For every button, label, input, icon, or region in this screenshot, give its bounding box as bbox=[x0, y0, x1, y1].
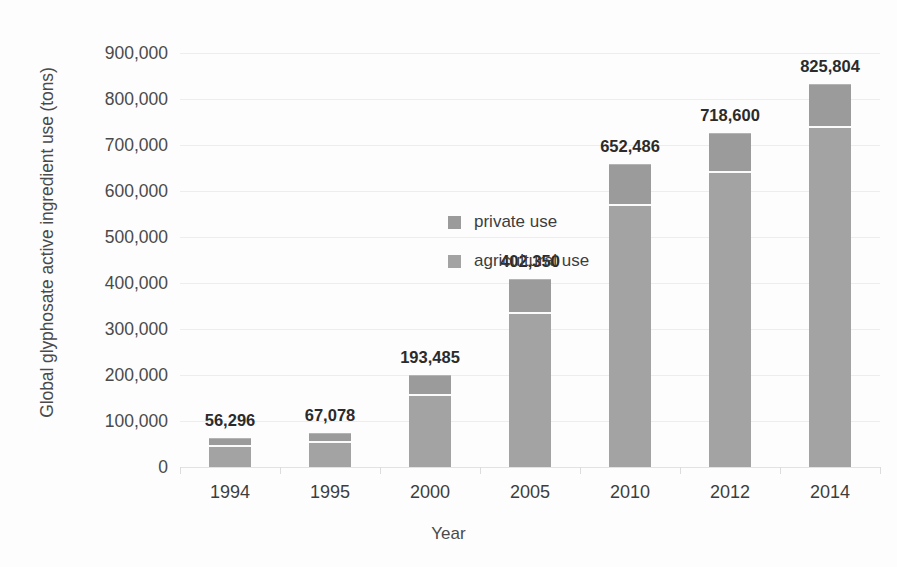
y-axis-tick-label: 600,000 bbox=[48, 181, 168, 202]
glyphosate-use-bar-chart: Global glyphosate active ingredient use … bbox=[0, 0, 897, 567]
y-axis-tick-label: 100,000 bbox=[48, 411, 168, 432]
y-axis-tick-label: 0 bbox=[48, 457, 168, 478]
bar-segment-private-use[interactable] bbox=[809, 84, 851, 128]
bar-group[interactable]: 652,486 bbox=[609, 53, 651, 467]
legend-item[interactable]: agricultural use bbox=[448, 251, 589, 271]
x-axis-tick-mark bbox=[180, 467, 181, 474]
bar-value-label: 825,804 bbox=[800, 57, 860, 76]
x-axis-tick-mark bbox=[780, 467, 781, 474]
bar-value-label: 56,296 bbox=[205, 411, 255, 430]
plot-area: 56,29667,078193,485402,350652,486718,600… bbox=[180, 53, 880, 467]
bar-segment-private-use[interactable] bbox=[209, 438, 251, 447]
y-axis-tick-label: 200,000 bbox=[48, 365, 168, 386]
y-axis-tick-label: 900,000 bbox=[48, 43, 168, 64]
bar-value-label: 193,485 bbox=[400, 348, 460, 367]
y-axis-tick-label: 500,000 bbox=[48, 227, 168, 248]
y-axis-tick-label: 800,000 bbox=[48, 89, 168, 110]
legend-label: agricultural use bbox=[474, 251, 589, 271]
x-axis-tick-mark bbox=[580, 467, 581, 474]
bar-group[interactable]: 718,600 bbox=[709, 53, 751, 467]
bar-group[interactable]: 67,078 bbox=[309, 53, 351, 467]
y-axis-tick-label: 400,000 bbox=[48, 273, 168, 294]
bar-segment-private-use[interactable] bbox=[409, 375, 451, 396]
bar-value-label: 718,600 bbox=[700, 106, 760, 125]
bar-group[interactable]: 56,296 bbox=[209, 53, 251, 467]
x-axis-tick-mark bbox=[680, 467, 681, 474]
bar-group[interactable]: 825,804 bbox=[809, 53, 851, 467]
bar-segment-agricultural-use[interactable] bbox=[609, 206, 651, 467]
gridline bbox=[180, 467, 880, 468]
x-axis-tick-mark bbox=[880, 467, 881, 474]
bar-segment-private-use[interactable] bbox=[709, 133, 751, 173]
x-axis-tick-mark bbox=[480, 467, 481, 474]
bar-segment-agricultural-use[interactable] bbox=[209, 447, 251, 467]
y-axis-tick-labels: 0100,000200,000300,000400,000500,000600,… bbox=[40, 53, 168, 467]
bar-segment-agricultural-use[interactable] bbox=[509, 314, 551, 467]
y-axis-tick-label: 300,000 bbox=[48, 319, 168, 340]
legend-label: private use bbox=[474, 212, 557, 232]
bar-value-label: 652,486 bbox=[600, 137, 660, 156]
y-axis-tick-label: 700,000 bbox=[48, 135, 168, 156]
x-axis-tick-mark bbox=[380, 467, 381, 474]
legend-swatch-icon bbox=[448, 255, 461, 268]
chart-legend: private useagricultural use bbox=[448, 212, 589, 290]
bar-value-label: 67,078 bbox=[305, 406, 355, 425]
bar-segment-agricultural-use[interactable] bbox=[409, 396, 451, 467]
bar-group[interactable]: 193,485 bbox=[409, 53, 451, 467]
legend-swatch-icon bbox=[448, 216, 461, 229]
x-axis-tick-mark bbox=[280, 467, 281, 474]
bar-segment-agricultural-use[interactable] bbox=[709, 173, 751, 467]
x-axis-title: Year bbox=[0, 524, 897, 544]
bar-segment-private-use[interactable] bbox=[609, 164, 651, 206]
bar-segment-agricultural-use[interactable] bbox=[309, 443, 351, 467]
bar-segment-agricultural-use[interactable] bbox=[809, 128, 851, 467]
legend-item[interactable]: private use bbox=[448, 212, 589, 232]
x-axis-tick-label: 2014 bbox=[770, 482, 890, 503]
bar-segment-private-use[interactable] bbox=[309, 433, 351, 442]
